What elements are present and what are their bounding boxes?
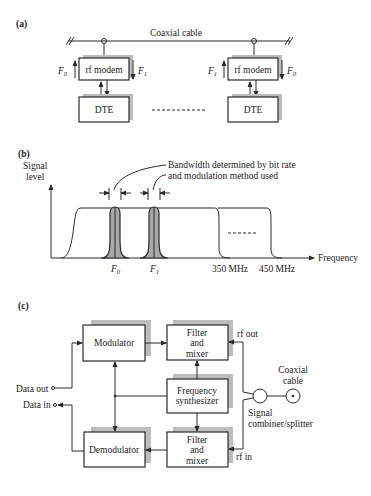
annotation-line-2: and modulation method used: [168, 171, 278, 181]
freq-up-left: F0: [57, 66, 68, 77]
freq-down-left: F1: [137, 66, 147, 77]
data-in-label: Data in: [23, 400, 51, 410]
dte-left-label: DTE: [95, 105, 114, 115]
y-axis-label-2: level: [26, 172, 45, 182]
filter-rx-line1: Filter: [187, 435, 208, 445]
rf-modem-right-label: rf modem: [234, 65, 272, 75]
combiner-label-2: combiner/splitter: [248, 419, 314, 429]
carrier-f0-label: F0: [110, 264, 121, 275]
panel-a: (a) Coaxial cable rf modem F0 F1 DTE: [16, 19, 297, 122]
panel-b-label: (b): [18, 149, 30, 160]
panel-a-label: (a): [16, 19, 27, 30]
carrier-f1-label: F1: [149, 264, 159, 275]
cable-band-envelope: [61, 208, 230, 258]
filter-rx-line2: and: [190, 445, 204, 455]
right-station: rf modem F1 F0 DTE: [207, 39, 297, 123]
x-axis-label: Frequency: [318, 253, 358, 263]
rf-in-label: rf in: [236, 452, 252, 462]
annotation-leader-f0: [114, 165, 166, 190]
panel-b: (b) Signal level Frequency Bandwidth det…: [18, 149, 358, 275]
rf-modem-left-label: rf modem: [85, 65, 123, 75]
filter-tx-line2: and: [190, 338, 204, 348]
left-station: rf modem F0 F1 DTE: [57, 39, 147, 123]
synth-line1: Frequency: [177, 386, 217, 396]
freq-down-right: F0: [286, 66, 297, 77]
data-out-label: Data out: [16, 384, 49, 394]
data-out-terminal: [52, 387, 55, 390]
figure-canvas: (a) Coaxial cable rf modem F0 F1 DTE: [0, 0, 371, 496]
cable-label: Coaxial cable: [150, 28, 202, 38]
combiner-label-1: Signal: [248, 408, 273, 418]
freq-up-right: F1: [207, 66, 217, 77]
filter-tx-line1: Filter: [187, 328, 208, 338]
data-out-wire: [55, 343, 82, 388]
filter-tx-line3: mixer: [186, 349, 209, 359]
rf-out-label: rf out: [237, 329, 258, 339]
signal-combiner-splitter-icon: [253, 389, 267, 403]
panel-c: (c) Modulator Filter and mixer Frequency…: [16, 301, 314, 467]
synth-line2: synthesizer: [176, 396, 220, 406]
coaxial-cable-label-1: Coaxial: [278, 365, 308, 375]
y-axis-label-1: Signal: [23, 161, 48, 171]
marker-450mhz: 450 MHz: [259, 264, 295, 274]
data-in-terminal: [54, 404, 57, 407]
bandwidth-markers: [99, 188, 170, 200]
data-in-wire: [58, 405, 84, 451]
coaxial-cable-label-2: cable: [283, 376, 303, 386]
annotation-leader-f1: [153, 175, 166, 190]
marker-350mhz: 350 MHz: [212, 264, 248, 274]
demodulator-label: Demodulator: [89, 445, 140, 455]
annotation-line-1: Bandwidth determined by bit rate: [168, 160, 296, 170]
modulator-label: Modulator: [94, 338, 135, 348]
filter-rx-line3: mixer: [186, 456, 209, 466]
dte-right-label: DTE: [244, 105, 263, 115]
panel-c-label: (c): [18, 301, 29, 312]
